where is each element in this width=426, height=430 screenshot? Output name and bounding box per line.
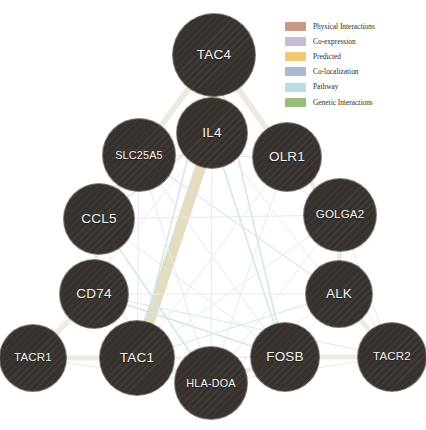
legend-item[interactable]: Co-localization [285,65,425,80]
gene-node-label: HLA-DOA [186,378,235,389]
gene-node-fosb[interactable]: FOSB [251,323,319,391]
network-diagram-app: TAC4IL4SLC25A5OLR1CCL5GOLGA2CD74ALKTACR1… [0,0,426,430]
legend-item[interactable]: Pathway [285,80,425,95]
gene-node-label: TACR1 [14,352,52,364]
gene-node-tac4[interactable]: TAC4 [173,14,255,96]
physical-interactions-swatch [285,22,306,31]
legend-item-label: Co-localization [313,68,359,75]
gene-node-label: SLC25A5 [115,150,163,161]
gene-node-golga2[interactable]: GOLGA2 [304,179,376,251]
genetic-interactions-swatch [285,98,306,107]
gene-node-label: OLR1 [269,150,305,164]
gene-node-olr1[interactable]: OLR1 [253,123,321,191]
gene-node-label: TAC1 [120,351,154,365]
gene-node-il4[interactable]: IL4 [177,98,247,168]
legend-item-label: Physical Interactions [313,23,375,30]
gene-node-label: GOLGA2 [316,209,365,221]
legend-item[interactable]: Physical Interactions [285,19,425,34]
legend-item-label: Predicted [313,53,341,60]
pathway-swatch [285,83,306,92]
legend-item-label: Genetic Interactions [313,99,373,106]
legend-item[interactable]: Co-expression [285,34,425,49]
gene-node-ccl5[interactable]: CCL5 [64,184,134,254]
legend-item[interactable]: Genetic Interactions [285,95,425,110]
legend-item-label: Pathway [313,83,338,90]
predicted-swatch [285,52,306,61]
gene-node-slc25a5[interactable]: SLC25A5 [103,119,175,191]
gene-node-label: ALK [326,287,352,301]
gene-node-alk[interactable]: ALK [306,261,372,327]
gene-node-label: TAC4 [197,48,231,62]
gene-node-label: IL4 [202,126,221,140]
gene-node-label: CD74 [76,287,111,301]
gene-node-label: FOSB [266,350,304,364]
gene-node-tacr1[interactable]: TACR1 [0,325,66,391]
legend-item-label: Co-expression [313,38,356,45]
legend-item[interactable]: Predicted [285,49,425,64]
network-legend: Physical InteractionsCo-expressionPredic… [285,19,425,110]
gene-node-label: TACR2 [373,351,411,363]
network-edge [211,133,212,383]
co-localization-swatch [285,67,306,76]
gene-node-label: CCL5 [81,212,116,226]
co-expression-swatch [285,37,306,46]
gene-node-tacr2[interactable]: TACR2 [358,323,426,391]
gene-node-cd74[interactable]: CD74 [60,260,128,328]
gene-node-hla-doa[interactable]: HLA-DOA [175,347,247,419]
gene-node-tac1[interactable]: TAC1 [100,321,174,395]
